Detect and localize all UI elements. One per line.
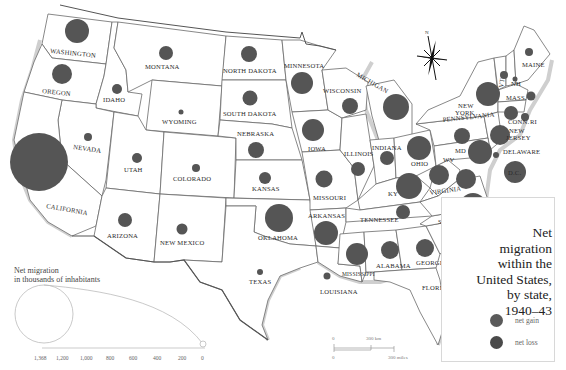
label-me: MAINE bbox=[522, 61, 545, 68]
label-nd: NORTH DAKOTA bbox=[223, 67, 277, 74]
circle-wi bbox=[342, 98, 358, 114]
circle-ar bbox=[314, 221, 338, 245]
net-gain-dot-icon bbox=[490, 314, 503, 327]
circle-in bbox=[380, 151, 394, 165]
circle-la bbox=[324, 273, 331, 280]
legend-label: net loss bbox=[515, 338, 538, 347]
circle-or bbox=[52, 64, 72, 84]
distance-scale: 0 300 km 0 300 miles bbox=[332, 336, 408, 360]
label-ia: IOWA bbox=[308, 145, 326, 152]
circle-sd bbox=[243, 91, 258, 106]
circle-nm bbox=[177, 224, 188, 235]
label-wv: WV bbox=[443, 156, 454, 163]
scale-tick: 1,000 bbox=[80, 355, 93, 361]
label-ny-1: NEW bbox=[458, 102, 474, 109]
circle-ut bbox=[132, 153, 142, 163]
title-line: migration bbox=[448, 241, 552, 257]
label-ri: RI bbox=[530, 118, 537, 125]
title-line: United States, bbox=[448, 272, 552, 288]
circle-md bbox=[468, 140, 492, 164]
circle-az bbox=[118, 213, 132, 227]
label-nm: NEW MEXICO bbox=[160, 239, 205, 246]
label-wy: WYOMING bbox=[162, 118, 197, 125]
label-in: INDIANA bbox=[372, 144, 402, 151]
scale-tick: 1,368 bbox=[34, 355, 47, 361]
label-al: ALABAMA bbox=[376, 262, 411, 269]
mile-300: 300 miles bbox=[388, 355, 408, 360]
circle-ky bbox=[396, 173, 422, 199]
label-ct: CONN. bbox=[508, 118, 529, 125]
label-de: DELAWARE bbox=[503, 148, 540, 155]
scale-tick: 800 bbox=[106, 355, 115, 361]
scale-tick: 400 bbox=[153, 355, 162, 361]
circle-mi bbox=[383, 94, 409, 120]
legend-label: net gain bbox=[515, 316, 539, 325]
circle-ne bbox=[248, 142, 264, 158]
circle-vt bbox=[500, 71, 508, 79]
label-id: IDAHO bbox=[103, 96, 125, 103]
circle-ms bbox=[346, 243, 368, 265]
scale-tick: 200 bbox=[178, 355, 187, 361]
map-title: Net migration within the United States, … bbox=[448, 225, 552, 318]
title-line: within the bbox=[448, 256, 552, 272]
label-mn: MINNESOTA bbox=[284, 62, 324, 69]
label-tx: TEXAS bbox=[249, 278, 271, 285]
circle-il bbox=[351, 162, 365, 176]
circle-ca bbox=[10, 133, 68, 191]
compass-rose-icon: N bbox=[417, 30, 447, 80]
label-ny-2: YORK bbox=[455, 109, 475, 116]
circle-me bbox=[525, 48, 533, 56]
title-line: Net bbox=[448, 225, 552, 241]
circle-ma bbox=[527, 92, 536, 101]
scale-tick: 0 bbox=[201, 355, 204, 361]
circle-mo bbox=[316, 171, 333, 188]
label-sd: SOUTH DAKOTA bbox=[223, 110, 276, 117]
label-co: COLORADO bbox=[173, 175, 211, 182]
label-tn: TENNESSEE bbox=[360, 216, 399, 223]
circle-ia bbox=[302, 119, 324, 141]
label-nj-2: JERSEY bbox=[506, 134, 531, 141]
label-ms: MISSISSIPPI bbox=[342, 271, 375, 277]
label-il: ILLINOIS bbox=[344, 150, 374, 157]
label-ky: KY bbox=[388, 190, 398, 197]
circle-ga bbox=[416, 239, 434, 257]
size-scale-ticks: 1,368 1,200 1,000 800 600 400 200 0 bbox=[34, 355, 204, 361]
label-oh: OHIO bbox=[411, 160, 428, 167]
circle-co bbox=[192, 164, 200, 172]
mile-zero: 0 bbox=[332, 355, 335, 360]
circle-pa bbox=[454, 128, 470, 144]
legend-net-loss: net loss bbox=[490, 336, 538, 349]
circle-wy bbox=[179, 110, 184, 115]
circle-de bbox=[493, 152, 499, 158]
size-scale-title-line: in thousands of inhabitants bbox=[14, 275, 100, 284]
label-ma: MASS. bbox=[506, 94, 527, 101]
label-wi: WISCONSIN bbox=[323, 87, 361, 94]
legend-net-gain: net gain bbox=[490, 314, 539, 327]
compass-north-label: N bbox=[425, 30, 429, 35]
title-line: by state, bbox=[448, 287, 552, 303]
circle-tx bbox=[257, 269, 263, 275]
km-zero: 0 bbox=[332, 336, 335, 341]
net-loss-dot-icon bbox=[490, 336, 503, 349]
circle-id bbox=[112, 84, 122, 94]
label-ut: UTAH bbox=[124, 166, 143, 173]
circle-oh bbox=[407, 136, 431, 160]
circle-nv bbox=[84, 133, 92, 141]
label-ar: ARKANSAS bbox=[308, 212, 345, 219]
label-az: ARIZONA bbox=[107, 232, 138, 239]
circle-nd bbox=[241, 46, 257, 62]
label-la: LOUISIANA bbox=[320, 288, 358, 295]
label-md: MD bbox=[455, 147, 466, 154]
circle-ks bbox=[259, 172, 271, 184]
label-ne: NEBRASKA bbox=[237, 130, 274, 137]
scale-tick: 600 bbox=[129, 355, 138, 361]
size-scale-title-line: Net migration bbox=[14, 266, 100, 275]
circle-mt bbox=[159, 46, 173, 60]
circle-al bbox=[381, 241, 399, 259]
label-nh: NH bbox=[511, 80, 521, 87]
label-ks: KANSAS bbox=[252, 185, 280, 192]
scale-tick: 1,200 bbox=[56, 355, 69, 361]
circle-wv bbox=[429, 165, 449, 185]
label-mt: MONTANA bbox=[145, 63, 180, 70]
label-dc: D.C. bbox=[508, 169, 521, 176]
